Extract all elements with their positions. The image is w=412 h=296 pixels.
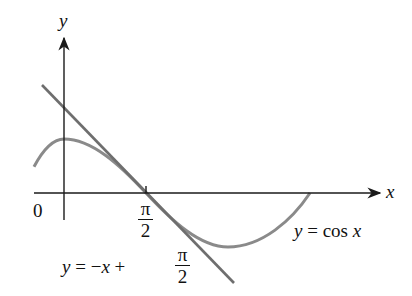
- origin-label: 0: [33, 200, 43, 222]
- figure: y x 0 π 2 y = cos x y = −x + π 2: [0, 0, 412, 296]
- tangent-label: y = −x +: [62, 256, 125, 278]
- plot: [0, 0, 412, 296]
- tick-label-pi-over-2: π 2: [138, 199, 153, 240]
- y-axis-label: y: [59, 10, 67, 32]
- curve-label: y = cos x: [294, 220, 361, 242]
- tangent-label-fraction: π 2: [175, 245, 190, 286]
- x-axis-label: x: [386, 181, 394, 203]
- tangent-line: [42, 85, 234, 283]
